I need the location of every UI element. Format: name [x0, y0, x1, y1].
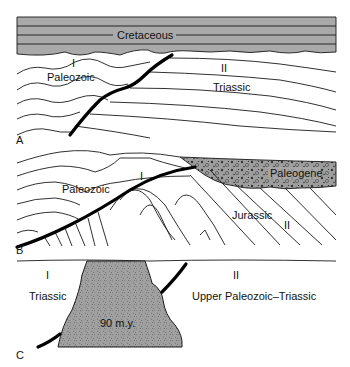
cretaceous-cover — [17, 17, 336, 55]
jurassic-label: Jurassic — [232, 209, 273, 221]
panel-letter-a: A — [16, 134, 24, 146]
paleozoic-label: Paleozoic — [47, 71, 95, 83]
fault-c-left — [38, 334, 60, 347]
panel-letter-c: C — [16, 349, 24, 361]
triassic-label: Triassic — [213, 81, 251, 93]
pluton-age-label: 90 m.y. — [100, 317, 135, 329]
geologic-cross-sections: Cretaceous I Paleozoic II Triassic A Pal… — [0, 0, 350, 367]
paleogene-label: Paleogene — [270, 167, 323, 179]
fault-a — [70, 55, 172, 135]
block-ii-label-b: II — [284, 219, 290, 231]
fault-c-right — [162, 264, 186, 292]
upper-paleozoic-triassic-label: Upper Paleozoic–Triassic — [192, 290, 317, 302]
cretaceous-label: Cretaceous — [117, 29, 174, 41]
pluton — [58, 261, 182, 347]
fault-b — [17, 167, 195, 247]
paleozoic-label-b: Paleozoic — [62, 183, 110, 195]
block-ii-label-c: II — [233, 269, 239, 281]
block-ii-label: II — [221, 62, 227, 74]
block-i-label: I — [72, 57, 75, 69]
panel-c: I Triassic II Upper Paleozoic–Triassic 9… — [16, 260, 336, 361]
panel-b: Paleogene I Paleozoic Jurassic II B — [16, 151, 336, 256]
panel-a: Cretaceous I Paleozoic II Triassic A — [16, 17, 336, 146]
block-i-label-c: I — [46, 269, 49, 281]
triassic-label-c: Triassic — [29, 290, 67, 302]
panel-letter-b: B — [16, 244, 23, 256]
block-i-label-b: I — [140, 170, 143, 182]
